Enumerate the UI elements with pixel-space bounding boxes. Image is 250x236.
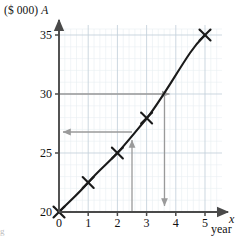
y-tick-label-35: 35 <box>26 28 52 43</box>
x-tick-label-3: 3 <box>140 216 154 231</box>
x-tick-label-4: 4 <box>169 216 183 231</box>
y-tick-label-25: 25 <box>26 146 52 161</box>
x-tick-label-5: 5 <box>198 216 212 231</box>
y-tick-label-30: 30 <box>26 87 52 102</box>
x-tick-label-2: 2 <box>110 216 124 231</box>
x-axis-sub-label: year <box>211 222 232 236</box>
y-axis-unit-label: ($ 000)A <box>4 4 48 16</box>
x-tick-label-1: 1 <box>81 216 95 231</box>
y-axis-variable: A <box>38 4 48 16</box>
y-tick-label-20: 20 <box>26 205 52 220</box>
chart-figure: ($ 000)A 35 30 25 20 0 1 2 3 4 5 x year … <box>0 0 250 236</box>
x-tick-label-0: 0 <box>52 216 66 231</box>
axis-ticks <box>55 35 205 216</box>
grid-minor <box>59 29 222 212</box>
y-axis-unit-text: ($ 000) <box>4 4 38 16</box>
page-edge-mark: g <box>0 226 5 236</box>
